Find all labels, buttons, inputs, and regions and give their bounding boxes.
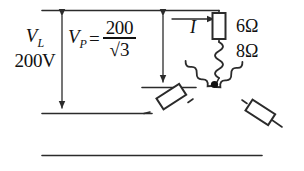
phase-voltage-equation: VP = 200 √3: [68, 18, 136, 59]
line-voltage-subscript: L: [37, 36, 44, 50]
fraction-denominator: √3: [107, 39, 133, 59]
reactance-label-8ohm: 8Ω: [236, 42, 258, 60]
branch-c-bottom-lead: [272, 120, 282, 127]
line-voltage-symbol: VL: [6, 26, 64, 49]
circuit-diagram-canvas: VL 200V VP = 200 √3 I 6Ω 8Ω: [0, 0, 304, 171]
inductor-b-8ohm: [181, 61, 216, 88]
line-voltage-value: 200V: [6, 51, 64, 70]
resistor-c-6ohm: [245, 100, 275, 126]
fraction: 200 √3: [103, 18, 137, 59]
neutral-node-dot: [211, 81, 218, 88]
current-label: I: [190, 18, 196, 36]
resistance-label-6ohm: 6Ω: [236, 17, 258, 35]
phase-voltage-subscript: P: [80, 37, 87, 51]
branch-c-mid-lead: [242, 100, 247, 104]
line-voltage-label: VL 200V: [6, 26, 64, 70]
equals-sign: =: [89, 29, 100, 48]
branch-b-mid-lead: [188, 99, 193, 103]
resistor-a-6ohm: [213, 13, 226, 39]
fraction-numerator: 200: [103, 18, 137, 37]
phase-voltage-symbol: VP: [68, 27, 87, 50]
inductor-a-8ohm: [215, 42, 223, 78]
